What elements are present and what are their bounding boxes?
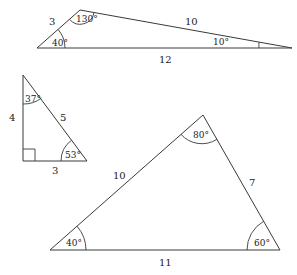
- angle-label: 37°: [25, 94, 41, 104]
- side-label: 3: [52, 165, 58, 176]
- angle-label: 53°: [65, 150, 81, 160]
- acute-triangle: 10 7 11 40° 80° 60°: [50, 115, 280, 268]
- right-angle-marker: [23, 149, 35, 161]
- angle-label: 60°: [254, 238, 270, 248]
- side-label: 4: [9, 112, 15, 123]
- side-label: 10: [113, 170, 126, 181]
- angle-label: 80°: [193, 130, 209, 140]
- right-triangle: 4 5 3 37° 53°: [9, 75, 87, 176]
- angle-label: 40°: [52, 38, 68, 48]
- angle-label: 40°: [66, 238, 82, 248]
- side-label: 11: [159, 257, 172, 268]
- obtuse-triangle: 3 10 12 40° 130° 10°: [37, 10, 292, 65]
- side-label: 12: [159, 54, 172, 65]
- acute-triangle-outline: [50, 115, 280, 250]
- side-label: 5: [60, 112, 66, 123]
- side-label: 10: [185, 16, 198, 27]
- side-label: 3: [49, 16, 55, 27]
- triangles-diagram: 3 10 12 40° 130° 10° 4 5 3 37° 53° 10 7 …: [0, 0, 297, 275]
- angle-label: 10°: [213, 37, 229, 47]
- angle-label: 130°: [76, 14, 98, 24]
- right-triangle-outline: [23, 75, 87, 161]
- side-label: 7: [249, 177, 255, 188]
